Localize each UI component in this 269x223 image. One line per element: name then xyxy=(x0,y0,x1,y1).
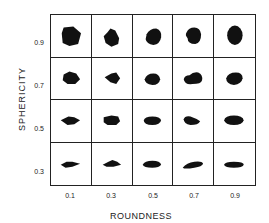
cell-s03-r03 xyxy=(92,143,133,186)
cell-s09-r09 xyxy=(214,15,255,58)
x-tick-0.1: 0.1 xyxy=(60,192,80,199)
cell-s05-r01 xyxy=(51,100,92,143)
grain-shape xyxy=(145,29,161,45)
x-tick-0.3: 0.3 xyxy=(101,192,121,199)
cell-s03-r05 xyxy=(133,143,174,186)
grain-shape xyxy=(61,116,80,125)
y-tick-0.9: 0.9 xyxy=(28,39,44,46)
grain-shape xyxy=(62,27,81,46)
cell-s05-r09 xyxy=(214,100,255,143)
cell-s05-r05 xyxy=(133,100,174,143)
cell-s09-r03 xyxy=(92,15,133,58)
cell-s07-r07 xyxy=(173,58,214,101)
grain-shape xyxy=(102,159,120,166)
cell-s07-r03 xyxy=(92,58,133,101)
x-tick-0.7: 0.7 xyxy=(184,192,204,199)
y-tick-0.7: 0.7 xyxy=(28,82,44,89)
cell-s03-r09 xyxy=(214,143,255,186)
x-tick-0.5: 0.5 xyxy=(143,192,163,199)
y-tick-0.5: 0.5 xyxy=(28,125,44,132)
y-axis-label: SPHERICITY xyxy=(17,71,27,131)
grain-shape xyxy=(224,161,244,167)
x-axis-label: ROUNDNESS xyxy=(110,211,172,221)
grain-shape xyxy=(142,160,160,167)
cell-s07-r09 xyxy=(214,58,255,101)
y-tick-0.3: 0.3 xyxy=(28,168,44,175)
cell-s05-r03 xyxy=(92,100,133,143)
grain-shape xyxy=(144,73,159,85)
grain-shape xyxy=(104,72,119,84)
cell-s07-r05 xyxy=(133,58,174,101)
grain-shape xyxy=(184,116,200,125)
grain-shape xyxy=(184,72,202,84)
cell-s03-r07 xyxy=(173,143,214,186)
x-tick-0.9: 0.9 xyxy=(225,192,245,199)
cell-s03-r01 xyxy=(51,143,92,186)
grain-shape xyxy=(61,161,80,167)
grain-shape xyxy=(63,71,80,84)
shape-grid xyxy=(50,14,256,186)
grain-shape xyxy=(103,29,118,47)
cell-s09-r01 xyxy=(51,15,92,58)
grain-shape xyxy=(224,115,243,125)
grain-shape xyxy=(226,72,242,85)
cell-s09-r07 xyxy=(173,15,214,58)
cell-s09-r05 xyxy=(133,15,174,58)
grain-shape xyxy=(186,28,201,44)
cell-s07-r01 xyxy=(51,58,92,101)
grain-shape xyxy=(143,116,160,125)
cell-s05-r07 xyxy=(173,100,214,143)
grain-shape xyxy=(103,115,119,125)
grain-shape xyxy=(227,26,242,45)
grain-shape xyxy=(183,161,203,168)
